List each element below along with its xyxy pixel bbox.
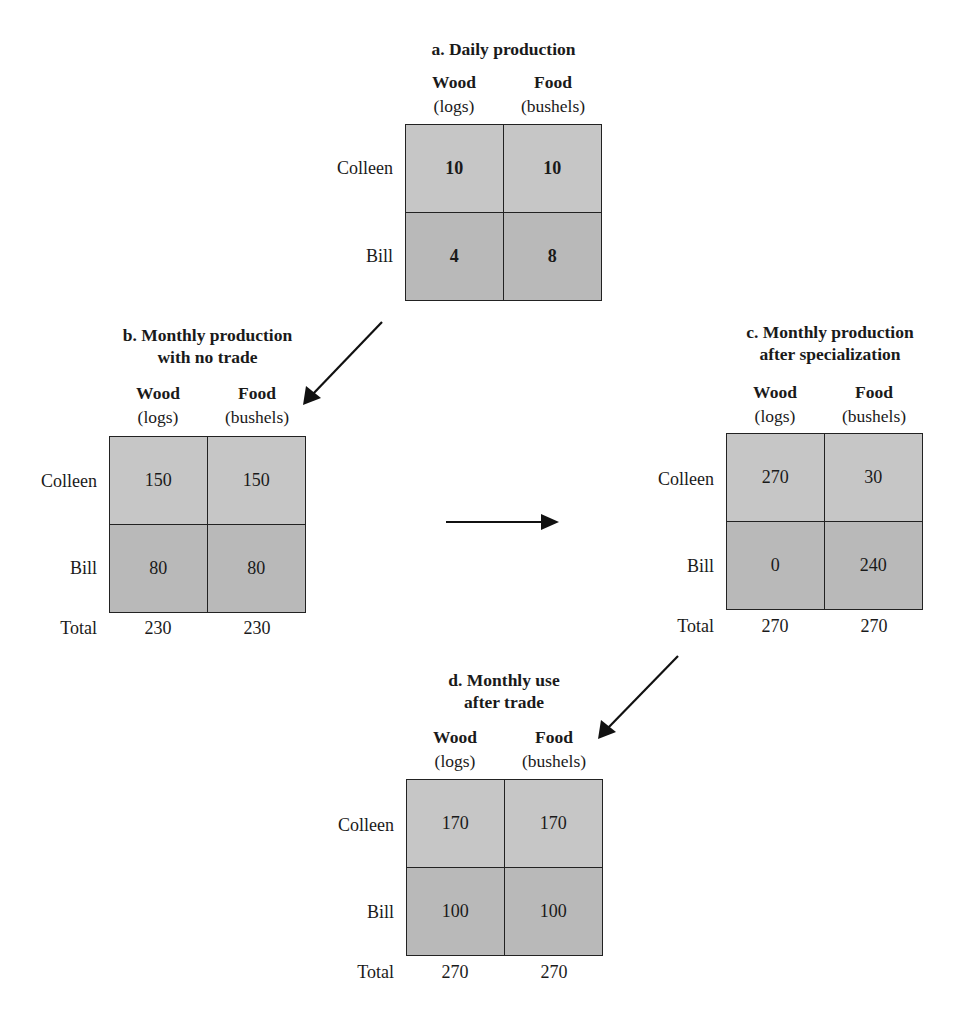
arrow-a-to-b-icon <box>303 322 382 405</box>
arrow-c-to-d-icon <box>598 656 678 739</box>
flow-arrows <box>0 0 960 1009</box>
arrow-b-to-c-icon <box>446 514 559 530</box>
